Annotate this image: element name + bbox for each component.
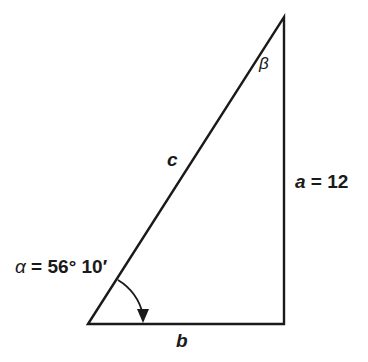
- angle-alpha-label: α = 56° 10′: [15, 257, 107, 276]
- alpha-variable: α: [15, 256, 26, 277]
- right-triangle: [88, 17, 284, 324]
- side-a-value: = 12: [306, 171, 349, 192]
- side-b-label: b: [176, 331, 188, 350]
- side-a-label: a = 12: [295, 172, 348, 191]
- side-c-label: c: [167, 150, 178, 169]
- side-a-variable: a: [295, 171, 306, 192]
- arc-arrowhead-icon: [137, 309, 149, 323]
- alpha-value: = 56° 10′: [26, 256, 107, 277]
- angle-beta-label: β: [259, 55, 269, 72]
